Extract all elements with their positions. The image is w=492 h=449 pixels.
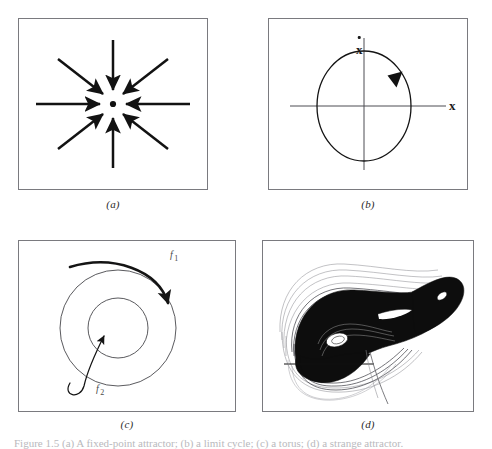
panel-a-label: (a) (18, 198, 208, 210)
panel-b-x-axis-label: x (449, 98, 456, 114)
panel-c-diagram (18, 240, 236, 412)
panel-c-f1-label: f1 (170, 249, 178, 263)
panel-a-fixed-point-dot (110, 101, 116, 107)
panel-d-strange-attractor (262, 240, 474, 412)
figure-caption: Figure 1.5 (a) A fixed-point attractor; … (14, 437, 482, 449)
panel-b-xdot-axis-label: x (356, 42, 363, 58)
panel-b-label: (b) (268, 198, 468, 210)
panel-d-label: (d) (262, 418, 474, 430)
panel-a-fixed-point-attractor (18, 18, 208, 190)
panel-c-f1-arrow (70, 262, 168, 303)
panel-b-limit-cycle: x x (268, 18, 468, 190)
panel-a-diagram (18, 18, 208, 190)
panel-c-inner-circle (88, 298, 148, 358)
panel-b-diagram (268, 18, 468, 190)
panel-c-torus: f1 f2 (18, 240, 236, 412)
panel-d-attractor-trajectories (280, 264, 464, 404)
panel-c-label: (c) (18, 418, 236, 430)
panel-d-diagram (262, 240, 474, 412)
panel-c-f2-label: f2 (96, 383, 104, 397)
panel-d-right-lobe (412, 277, 464, 334)
panel-b-direction-arrowhead (388, 72, 403, 88)
